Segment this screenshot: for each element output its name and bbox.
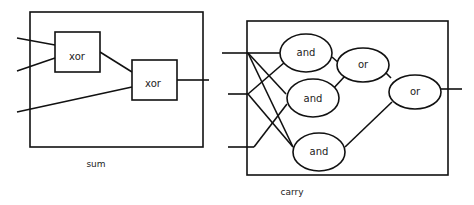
or2-label: or	[410, 86, 421, 97]
full-adder-diagram: xor xor sum and and	[0, 0, 474, 205]
and3-label: and	[310, 146, 329, 157]
xor1-label: xor	[69, 51, 86, 62]
carry-caption: carry	[280, 187, 304, 197]
or1-label: or	[358, 59, 369, 70]
and1-label: and	[297, 47, 316, 58]
xor1-gate: xor	[55, 32, 100, 72]
or2-gate: or	[389, 75, 441, 109]
xor2-label: xor	[145, 78, 162, 89]
and1-gate: and	[280, 34, 332, 72]
carry-circuit: and and and or or carry	[222, 21, 462, 197]
and2-label: and	[304, 93, 323, 104]
sum-circuit: xor xor sum	[17, 12, 209, 169]
sum-caption: sum	[86, 159, 105, 169]
or1-gate: or	[337, 48, 389, 82]
and2-gate: and	[287, 79, 339, 117]
and3-gate: and	[293, 133, 345, 171]
xor2-gate: xor	[132, 60, 177, 100]
